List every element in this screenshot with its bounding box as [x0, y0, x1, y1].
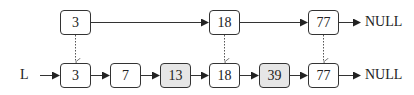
bottom-null-label: NULL [365, 67, 402, 83]
bottom-node-7: 7 [110, 63, 141, 88]
top-node-3: 3 [60, 10, 91, 35]
bottom-node-39: 39 [259, 63, 290, 88]
bottom-node-18: 18 [209, 63, 240, 88]
top-node-77: 77 [308, 10, 339, 35]
top-null-label: NULL [365, 14, 402, 30]
list-head-label: L [20, 67, 29, 83]
bottom-node-13: 13 [160, 63, 191, 88]
bottom-node-77: 77 [308, 63, 339, 88]
top-node-18: 18 [209, 10, 240, 35]
bottom-node-3: 3 [60, 63, 91, 88]
